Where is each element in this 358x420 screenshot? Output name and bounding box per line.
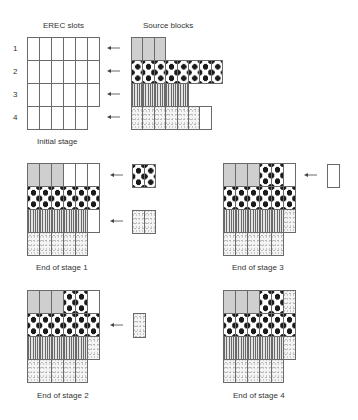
stage-1-label: End of stage 1	[36, 263, 88, 272]
stage-2-leftover-row2	[133, 313, 145, 337]
empty-cell	[283, 163, 296, 187]
row-number-1: 1	[13, 44, 17, 53]
stage-3-erec-grid	[223, 163, 295, 255]
empty-cell	[87, 83, 100, 107]
light-dotted-cell	[144, 210, 156, 234]
stage-2-erec-grid	[27, 290, 99, 382]
arrow-left-icon	[110, 172, 124, 178]
stage-2-label: End of stage 2	[37, 391, 89, 400]
light-dotted-cell	[87, 336, 100, 360]
stage-1-erec-grid	[27, 163, 99, 255]
empty-cell	[327, 164, 340, 188]
empty-cell	[75, 106, 88, 130]
polka-dot-cell	[211, 60, 223, 84]
empty-cell	[87, 290, 100, 314]
light-dotted-cell	[75, 232, 88, 256]
row-number-4: 4	[13, 113, 17, 122]
stage-4-label: End of stage 4	[233, 391, 285, 400]
empty-cell	[87, 37, 100, 61]
arrow-left-icon	[107, 68, 121, 74]
arrow-left-icon	[110, 322, 124, 328]
stage-4-erec-grid	[223, 290, 295, 382]
light-dotted-cell	[271, 359, 284, 383]
source-blocks-header: Source blocks	[143, 21, 193, 30]
arrow-left-icon	[110, 218, 124, 224]
arrow-left-icon	[107, 114, 121, 120]
vertical-stripe-cell	[177, 83, 189, 107]
arrow-left-icon	[107, 91, 121, 97]
source-blocks-grid	[131, 37, 222, 129]
polka-dot-cell	[283, 313, 296, 337]
arrow-left-icon	[107, 45, 121, 51]
light-dotted-cell	[133, 313, 146, 338]
row-number-2: 2	[13, 67, 17, 76]
erec-slots-header: EREC slots	[43, 21, 84, 30]
light-dotted-cell	[75, 359, 88, 383]
arrow-left-icon	[304, 172, 318, 178]
polka-dot-cell	[283, 186, 296, 210]
initial-stage-label: Initial stage	[37, 137, 77, 146]
light-dotted-cell	[283, 290, 296, 314]
light-dotted-cell	[283, 209, 296, 233]
stage-1-leftover-row1	[132, 164, 155, 187]
gray-dotted-cell	[154, 37, 166, 61]
light-dotted-cell	[271, 232, 284, 256]
stage-3-label: End of stage 3	[232, 263, 284, 272]
light-dotted-cell	[283, 336, 296, 360]
polka-dot-cell	[144, 164, 156, 188]
stage-1-leftover-row3	[132, 210, 155, 233]
empty-cell	[199, 106, 212, 130]
empty-cell	[87, 163, 100, 187]
stage-3-leftover-row1	[327, 164, 339, 187]
polka-dot-cell	[87, 186, 100, 210]
polka-dot-cell	[87, 313, 100, 337]
empty-cell	[87, 209, 100, 233]
empty-cell	[87, 60, 100, 84]
row-number-3: 3	[13, 90, 17, 99]
initial-erec-grid	[27, 37, 99, 129]
